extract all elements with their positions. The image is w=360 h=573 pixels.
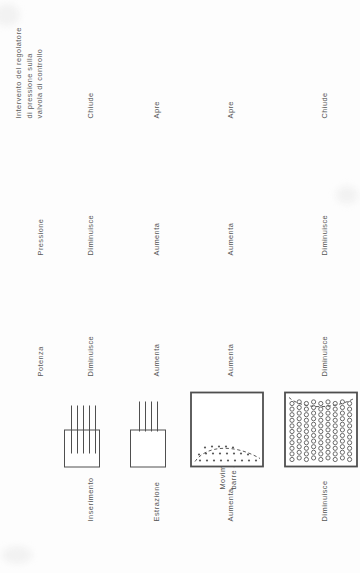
row-4-power-value: Diminuisce: [320, 335, 330, 376]
comparison-table: Intervento del regolatore di pressione s…: [0, 0, 360, 573]
core-high-void-icon: [284, 389, 360, 467]
column-header-valve-line3: valvola di controllo: [35, 27, 46, 118]
core-low-void-icon: [190, 389, 266, 467]
column-header-valve-line2: di pressione sulla: [25, 27, 36, 118]
control-rods-withdrawn-icon: [128, 397, 168, 467]
column-header-valve: Intervento del regolatore di pressione s…: [14, 27, 46, 118]
row-4-action-label: Diminuisce: [320, 480, 329, 521]
row-2-action-label: Estrazione: [152, 481, 161, 521]
row-1-valve-value: Chiude: [86, 92, 96, 118]
row-2-pressure-value: Aumenta: [152, 222, 162, 255]
row-4-valve-value: Chiude: [320, 92, 330, 118]
row-3-action-label: Aumenta: [226, 488, 235, 521]
row-2-power-value: Aumenta: [152, 343, 162, 376]
row-4-pressure-value: Diminuisce: [320, 214, 330, 255]
column-header-valve-line1: Intervento del regolatore: [14, 27, 25, 118]
row-3-power-value: Aumenta: [226, 343, 236, 376]
column-header-power: Potenza: [36, 346, 47, 376]
row-1-pressure-value: Diminuisce: [86, 214, 96, 255]
row-1-action-label: Inserimento: [86, 477, 95, 521]
column-header-pressure: Pressione: [36, 218, 47, 255]
rotated-table-stage: Intervento del regolatore di pressione s…: [0, 0, 360, 573]
page-canvas: Intervento del regolatore di pressione s…: [0, 0, 360, 573]
row-2-valve-value: Apre: [152, 101, 162, 118]
row-1-power-value: Diminuisce: [86, 335, 96, 376]
control-rods-inserted-icon: [62, 401, 102, 467]
row-3-pressure-value: Aumenta: [226, 222, 236, 255]
row-3-valve-value: Apre: [226, 101, 236, 118]
